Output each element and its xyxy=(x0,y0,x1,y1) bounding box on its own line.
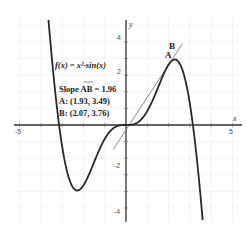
y-axis-label: y xyxy=(128,20,133,29)
y-tick-2: 2 xyxy=(117,68,121,75)
x-tick-neg5: -5 xyxy=(15,128,21,135)
y-tick-4: 4 xyxy=(117,34,121,41)
x-tick-5: 5 xyxy=(229,128,233,135)
point-a-coords: A: (1.93, 3.49) xyxy=(59,96,110,106)
point-a-label: A xyxy=(165,50,172,60)
point-b-coords: B: (2.07, 3.76) xyxy=(59,108,109,118)
y-tick-neg2: -2 xyxy=(114,162,120,169)
x-axis-label: x xyxy=(232,114,237,123)
plot: -5 5 4 2 -2 -4 y x B A f(x) = x²·sin(x) … xyxy=(0,0,249,229)
graph-canvas: -5 5 4 2 -2 -4 y x B A f(x) = x²·sin(x) … xyxy=(0,0,249,229)
y-tick-neg4: -4 xyxy=(114,208,120,215)
slope-label: Slope AB = 1.96 xyxy=(59,84,116,94)
function-label: f(x) = x²·sin(x) xyxy=(55,60,106,70)
